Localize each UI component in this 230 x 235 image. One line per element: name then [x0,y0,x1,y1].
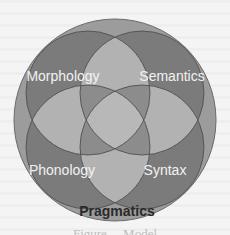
figure-caption: Figure ... Model [73,226,158,235]
syntax-label: Syntax [144,162,187,178]
pragmatics-label: Pragmatics [79,203,155,219]
morphology-label: Morphology [26,68,99,84]
venn-diagram: Morphology Semantics Phonology Syntax Pr… [0,0,230,235]
semantics-label: Semantics [139,68,204,84]
phonology-label: Phonology [29,162,95,178]
